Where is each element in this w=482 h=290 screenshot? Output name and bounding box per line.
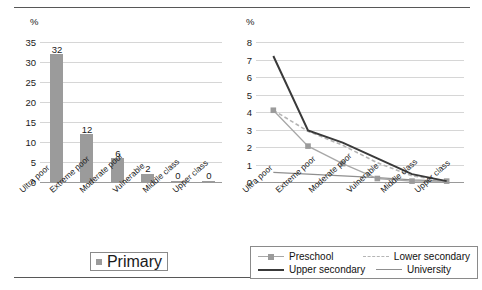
y-tick-label: 35 — [25, 38, 36, 48]
line-series-group — [256, 42, 464, 182]
bar-value-label: 12 — [82, 125, 93, 135]
bar-value-label: 0 — [206, 171, 211, 181]
legend-swatch-university-icon — [376, 269, 402, 270]
legend-swatch-lower-secondary-icon — [363, 256, 389, 257]
y-tick-label: 7 — [247, 56, 252, 66]
gridline-30: 30 — [40, 62, 222, 63]
legend-row-1: Preschool Lower secondary — [258, 250, 470, 263]
y-tick-label: 5 — [247, 91, 252, 101]
line-chart-panel: % 8 7 6 5 4 3 2 1 — [230, 12, 480, 274]
legend-label-lower-secondary: Lower secondary — [394, 252, 470, 262]
y-tick-label: 10 — [25, 138, 36, 148]
legend-label-upper-secondary: Upper secondary — [289, 265, 365, 275]
data-point-marker[interactable] — [409, 178, 415, 184]
bar-chart-plot-area: 35 30 25 20 15 10 5 0 — [40, 42, 222, 182]
legend-swatch-primary-icon — [96, 259, 102, 265]
legend-swatch-upper-secondary-icon — [258, 269, 284, 271]
bar-chart-legend: Primary — [90, 252, 168, 271]
y-tick-label: 20 — [25, 98, 36, 108]
y-tick-label: 8 — [247, 38, 252, 48]
gridline-25: 25 — [40, 82, 222, 83]
top-divider-rule — [14, 7, 470, 8]
legend-label-university: University — [407, 265, 451, 275]
line-chart-plot-area: 8 7 6 5 4 3 2 1 0 — [256, 42, 464, 182]
bar-chart-y-axis-unit: % — [30, 16, 38, 27]
y-tick-label: 15 — [25, 118, 36, 128]
gridline-10: 10 — [40, 142, 222, 143]
bar-value-label: 32 — [52, 45, 63, 55]
y-tick-label: 6 — [247, 73, 252, 83]
data-point-marker[interactable] — [305, 143, 311, 149]
legend-entry-lower-secondary: Lower secondary — [363, 252, 470, 262]
legend-swatch-preschool-icon — [258, 253, 284, 261]
legend-row-2: Upper secondary University — [258, 263, 470, 276]
gridline-15: 15 — [40, 122, 222, 123]
y-tick-label: 30 — [25, 58, 36, 68]
line-chart-legend: Preschool Lower secondary Upper secondar… — [250, 246, 478, 279]
bar-upper-class[interactable] — [202, 181, 215, 182]
figure-page: % 35 30 25 20 15 10 5 — [0, 0, 482, 290]
data-point-marker[interactable] — [375, 176, 381, 182]
y-tick-label: 5 — [31, 158, 36, 168]
gridline-35: 35 — [40, 42, 222, 43]
line-chart-y-axis-unit: % — [246, 16, 254, 27]
bar-ultra-poor[interactable] — [50, 54, 63, 182]
legend-entry-preschool: Preschool — [258, 252, 363, 262]
gridline-5: 5 — [40, 162, 222, 163]
legend-entry-upper-secondary: Upper secondary — [258, 265, 376, 275]
legend-label-preschool: Preschool — [289, 252, 333, 262]
legend-label-primary: Primary — [107, 254, 162, 270]
bar-chart-panel: % 35 30 25 20 15 10 5 — [4, 12, 232, 274]
legend-entry-university: University — [376, 265, 451, 275]
gridline-20: 20 — [40, 102, 222, 103]
y-tick-label: 1 — [247, 161, 252, 171]
y-tick-label: 4 — [247, 108, 252, 118]
bar-value-label: 2 — [145, 164, 150, 174]
y-tick-label: 3 — [247, 126, 252, 136]
y-tick-label: 2 — [247, 143, 252, 153]
y-tick-label: 25 — [25, 78, 36, 88]
data-point-marker[interactable] — [271, 107, 277, 113]
